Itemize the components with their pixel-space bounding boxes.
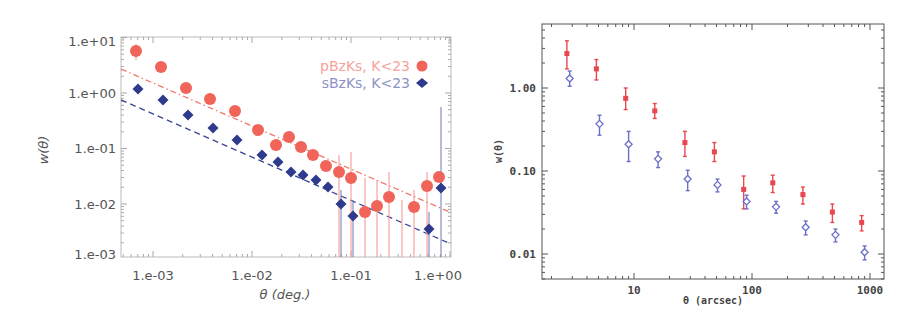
data-point-pbzks: [270, 139, 282, 151]
data-point-pbzks: [345, 172, 357, 184]
left-xtick-label: 1.e-01: [330, 268, 372, 283]
data-point-blue: [566, 75, 573, 82]
right-y-axis-title: w(θ): [493, 139, 504, 163]
left-x-axis-title: θ (deg.): [260, 287, 311, 302]
data-point-blue: [802, 224, 809, 231]
left-xtick-label: 1.e-02: [231, 268, 273, 283]
data-point-sbzks: [257, 150, 268, 161]
data-point-sbzks: [298, 170, 309, 181]
data-point-sbzks: [158, 95, 169, 106]
right-x-axis-title: θ (arcsec): [683, 295, 743, 306]
data-point-blue: [625, 141, 632, 148]
left-ytick-label: 1.e+00: [68, 86, 116, 101]
right-ytick-label: 0.10: [510, 165, 537, 178]
right-xtick-label: 100: [742, 284, 762, 297]
data-point-red: [830, 210, 835, 215]
data-point-pbzks: [130, 45, 142, 57]
data-point-pbzks: [283, 131, 295, 143]
data-point-sbzks: [336, 199, 347, 210]
data-point-sbzks: [273, 157, 284, 168]
data-point-blue: [832, 231, 839, 238]
legend-marker-diamond-icon: [416, 78, 428, 88]
data-point-sbzks: [348, 211, 359, 222]
data-point-blue: [596, 120, 603, 127]
right-xtick-label: 1000: [857, 284, 884, 297]
data-point-sbzks: [208, 123, 219, 134]
data-point-pbzks: [229, 105, 241, 117]
data-point-red: [564, 51, 569, 56]
data-point-sbzks: [286, 167, 297, 178]
data-point-red: [859, 220, 864, 225]
data-point-blue: [861, 249, 868, 256]
right-data-points: [564, 41, 868, 260]
data-point-pbzks: [252, 124, 264, 136]
data-point-pbzks: [383, 191, 395, 203]
data-point-red: [712, 149, 717, 154]
data-point-pbzks: [359, 206, 371, 218]
data-point-red: [770, 180, 775, 185]
left-ytick-label: 1.e-02: [74, 197, 116, 212]
right-chart: 1.00 0.10 0.01 10 100 1000 θ (arcsec) w(…: [493, 24, 884, 306]
left-xtick-label: 1.e+00: [414, 268, 462, 283]
data-point-blue: [773, 203, 780, 210]
left-ytick-label: 1.e+01: [68, 34, 116, 49]
left-ytick-label: 1.e-01: [74, 141, 116, 156]
right-ytick-label: 1.00: [510, 82, 537, 95]
data-point-pbzks: [307, 149, 319, 161]
left-y-axis-title: w(θ): [36, 136, 51, 165]
data-point-pbzks: [333, 166, 345, 178]
data-point-red: [594, 66, 599, 71]
left-chart: 1.e+01 1.e+00 1.e-01 1.e-02 1.e-03 1.e-0…: [36, 34, 462, 302]
figure-canvas: 1.e+01 1.e+00 1.e-01 1.e-02 1.e-03 1.e-0…: [0, 0, 918, 323]
data-point-red: [682, 140, 687, 145]
legend-marker-circle-icon: [417, 61, 428, 72]
data-point-sbzks: [232, 135, 243, 146]
data-point-pbzks: [320, 160, 332, 172]
data-point-pbzks: [204, 93, 216, 105]
legend-label-pbzks: pBzKs, K<23: [320, 58, 410, 74]
data-point-red: [652, 108, 657, 113]
data-point-blue: [655, 155, 662, 162]
data-point-sbzks: [436, 183, 447, 194]
data-point-pbzks: [180, 82, 192, 94]
data-point-sbzks: [323, 182, 334, 193]
data-point-red: [800, 192, 805, 197]
data-point-red: [623, 96, 628, 101]
data-point-pbzks: [295, 141, 307, 153]
legend-label-sbzks: sBzKs, K<23: [322, 75, 410, 91]
data-point-sbzks: [133, 84, 144, 95]
data-point-pbzks: [421, 180, 433, 192]
data-point-pbzks: [155, 61, 167, 73]
data-point-blue: [714, 181, 721, 188]
data-point-pbzks: [433, 171, 445, 183]
left-xtick-label: 1.e-03: [132, 268, 174, 283]
data-point-blue: [684, 176, 691, 183]
right-xtick-label: 10: [627, 284, 640, 297]
left-ytick-label: 1.e-03: [74, 247, 116, 262]
data-point-sbzks: [183, 110, 194, 121]
data-point-pbzks: [371, 200, 383, 212]
data-point-sbzks: [311, 175, 322, 186]
data-point-pbzks: [408, 201, 420, 213]
data-point-red: [741, 187, 746, 192]
right-ytick-label: 0.01: [510, 248, 537, 261]
